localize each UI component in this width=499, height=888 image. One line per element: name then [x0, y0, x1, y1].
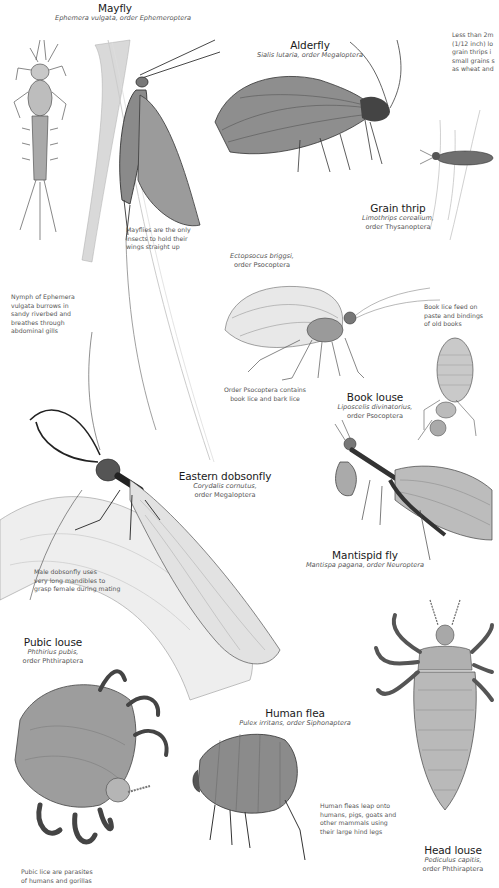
- species-order: order Thysanoptera: [348, 223, 448, 232]
- note-book-lice-feed: Book lice feed on paste and bindings of …: [424, 303, 494, 329]
- species-order: order Phthiraptera: [18, 657, 88, 666]
- species-common-name: Alderfly: [250, 39, 370, 51]
- species-common-name: Grain thrip: [348, 202, 448, 214]
- label-head-louse: Head louse Pediculus capitis, order Phth…: [418, 844, 488, 874]
- label-human-flea: Human flea Pulex irritans, order Siphona…: [235, 707, 355, 728]
- label-mantispid-fly: Mantispid fly Mantispa pagana, order Neu…: [305, 549, 425, 570]
- label-alderfly: Alderfly Sialis lutaria, order Megalopte…: [250, 39, 370, 60]
- species-order: order Phthiraptera: [418, 865, 488, 874]
- note-pubic-lice: Pubic lice are parasites of humans and g…: [21, 868, 111, 885]
- species-order: order Psocoptera: [335, 412, 415, 421]
- species-scientific-name: Pulex irritans, order Siphonaptera: [235, 719, 355, 728]
- species-common-name: Book louse: [335, 391, 415, 403]
- species-scientific-name: Phthirius pubis,: [18, 648, 88, 657]
- label-mayfly: Mayfly Ephemera vulgata, order Ephemerop…: [55, 2, 175, 23]
- note-grain-thrip: Less than 2m (1/12 inch) lo grain thrips…: [452, 31, 499, 74]
- species-scientific-name: Corydalis cornutus,: [175, 482, 275, 491]
- species-scientific-name: Ephemera vulgata, order Ephemeroptera: [55, 14, 175, 23]
- note-psocoptera: Order Psocoptera contains book lice and …: [220, 386, 310, 403]
- species-common-name: Head louse: [418, 844, 488, 856]
- species-common-name: Eastern dobsonfly: [175, 470, 275, 482]
- species-scientific-name: Sialis lutaria, order Megaloptera: [250, 51, 370, 60]
- label-book-louse: Book louse Liposcelis divinatorius, orde…: [335, 391, 415, 421]
- species-order: order Psocoptera: [222, 261, 302, 270]
- note-mayfly-wings: Mayflies are the only insects to hold th…: [126, 226, 216, 252]
- species-scientific-name: Limothrips cerealium,: [348, 214, 448, 223]
- species-scientific-name: Mantispa pagana, order Neuroptera: [305, 561, 425, 570]
- species-scientific-name: Pediculus capitis,: [418, 856, 488, 865]
- species-common-name: Human flea: [235, 707, 355, 719]
- species-common-name: Mantispid fly: [305, 549, 425, 561]
- label-grain-thrip: Grain thrip Limothrips cerealium, order …: [348, 202, 448, 232]
- note-dobsonfly: Male dobsonfly uses very long mandibles …: [34, 568, 144, 594]
- label-eastern-dobsonfly: Eastern dobsonfly Corydalis cornutus, or…: [175, 470, 275, 500]
- species-order: order Megaloptera: [175, 491, 275, 500]
- species-common-name: Mayfly: [55, 2, 175, 14]
- note-human-flea: Human fleas leap onto humans, pigs, goat…: [320, 802, 400, 836]
- note-nymph: Nymph of Ephemera vulgata burrows in san…: [11, 293, 91, 336]
- species-scientific-name: Ectopsocus briggsi,: [222, 252, 302, 261]
- species-common-name: Pubic louse: [18, 636, 88, 648]
- species-scientific-name: Liposcelis divinatorius,: [335, 403, 415, 412]
- label-ectopsocus: Ectopsocus briggsi, order Psocoptera: [222, 252, 302, 270]
- label-pubic-louse: Pubic louse Phthirius pubis, order Phthi…: [18, 636, 88, 666]
